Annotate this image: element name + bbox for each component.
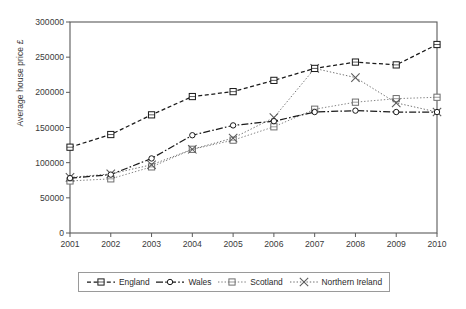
data-point-england: [230, 89, 236, 95]
data-point-england: [312, 65, 318, 71]
legend-item-scotland[interactable]: Scotland: [217, 276, 283, 288]
legend-item-northern-ireland[interactable]: Northern Ireland: [289, 276, 383, 288]
data-point-wales: [353, 108, 358, 113]
data-point-wales: [67, 175, 72, 180]
marker-circle: [67, 175, 72, 180]
x-tick-label: 2005: [224, 239, 243, 249]
legend-swatch-square-icon: [86, 276, 116, 288]
marker-circle: [394, 109, 399, 114]
x-tick-label: 2008: [346, 239, 365, 249]
x-tick-label: 2006: [264, 239, 283, 249]
plot-area: [0, 0, 466, 309]
x-tick-label: 2007: [305, 239, 324, 249]
data-point-england: [148, 112, 154, 118]
data-point-wales: [190, 133, 195, 138]
marker-circle: [230, 123, 235, 128]
marker-circle: [312, 109, 317, 114]
data-point-wales: [434, 109, 439, 114]
marker-circle: [168, 279, 173, 284]
data-point-scotland: [434, 94, 440, 100]
marker-circle: [434, 109, 439, 114]
y-axis-tick-labels: 050000100000150000200000250000300000: [0, 0, 64, 309]
data-point-scotland: [352, 99, 358, 105]
marker-circle: [108, 172, 113, 177]
data-point-wales: [312, 109, 317, 114]
data-point-england: [393, 62, 399, 68]
x-tick-label: 2001: [60, 239, 79, 249]
legend-marker: [168, 279, 173, 284]
x-tick-label: 2002: [101, 239, 120, 249]
data-point-scotland: [271, 124, 277, 130]
data-point-wales: [149, 156, 154, 161]
line-chart: Average house price £ 050000100000150000…: [0, 0, 466, 309]
x-tick-label: 2004: [183, 239, 202, 249]
x-tick-label: 2009: [387, 239, 406, 249]
y-tick-label: 0: [59, 228, 64, 238]
data-point-england: [108, 131, 114, 137]
marker-circle: [190, 133, 195, 138]
data-point-england: [271, 77, 277, 83]
legend-marker: [229, 279, 235, 285]
legend-label: Scotland: [250, 278, 283, 286]
data-point-england: [67, 144, 73, 150]
series-line-england: [70, 45, 437, 148]
y-tick-label: 150000: [35, 123, 64, 133]
data-point-england: [434, 41, 440, 47]
legend-label: England: [119, 278, 150, 286]
y-tick-label: 100000: [35, 158, 64, 168]
marker-circle: [149, 156, 154, 161]
series-line-northern-ireland: [70, 68, 437, 177]
legend-label: Northern Ireland: [322, 278, 383, 286]
x-tick-label: 2003: [142, 239, 161, 249]
series-line-wales: [70, 111, 437, 179]
legend-item-wales[interactable]: Wales: [155, 276, 211, 288]
marker-circle: [271, 118, 276, 123]
y-tick-label: 200000: [35, 87, 64, 97]
data-point-england: [352, 59, 358, 65]
legend-label: Wales: [188, 278, 211, 286]
legend-item-england[interactable]: England: [86, 276, 150, 288]
legend-swatch-circle-icon: [155, 276, 185, 288]
data-point-wales: [394, 109, 399, 114]
data-point-england: [189, 93, 195, 99]
y-tick-label: 50000: [40, 193, 64, 203]
y-tick-label: 300000: [35, 17, 64, 27]
legend-marker: [98, 279, 104, 285]
data-point-wales: [230, 123, 235, 128]
y-tick-label: 250000: [35, 52, 64, 62]
legend-swatch-cross-icon: [289, 276, 319, 288]
marker-circle: [353, 108, 358, 113]
data-point-wales: [108, 172, 113, 177]
data-point-northern-ireland: [351, 73, 359, 81]
x-tick-label: 2010: [427, 239, 446, 249]
chart-legend: EnglandWalesScotlandNorthern Ireland: [78, 272, 390, 292]
data-point-wales: [271, 118, 276, 123]
legend-swatch-square-icon: [217, 276, 247, 288]
